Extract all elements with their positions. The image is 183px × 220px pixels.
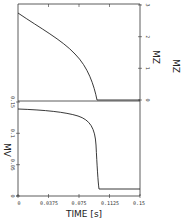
mv-tick-0: 0 xyxy=(10,194,16,197)
mz-tick-labels: 0 1 2 3 xyxy=(145,3,151,101)
x-tick-2: 0.075 xyxy=(71,200,86,206)
mz-tick-0: 0 xyxy=(145,98,151,101)
mv-panel: 0 0.05 0.1 0.15 MV 0 0.0375 0.075 0.1125… xyxy=(2,96,145,219)
x-tick-labels: 0 0.0375 0.075 0.1125 0.15 xyxy=(17,200,145,206)
mv-tick-2: 0.1 xyxy=(10,129,16,138)
mv-series-line xyxy=(18,109,140,189)
mv-axis-label: MV xyxy=(2,143,12,158)
mz-tick-2: 2 xyxy=(145,35,151,38)
x-tick-0: 0 xyxy=(17,200,20,206)
x-tick-3: 0.1125 xyxy=(101,200,119,206)
stacked-line-chart: 0 1 2 3 MZ MZ 0 0.05 0.1 0.15 MV xyxy=(0,0,183,220)
mv-tick-1: 0.05 xyxy=(10,159,16,171)
mz-axis-label: MZ xyxy=(151,50,161,64)
x-axis-label: TIME [s] xyxy=(65,209,102,219)
mv-tick-3: 0.15 xyxy=(10,96,16,108)
x-tick-1: 0.0375 xyxy=(40,200,58,206)
mz-tick-3: 3 xyxy=(145,3,151,6)
mz-axis-label-outer: MZ xyxy=(171,59,181,73)
x-tick-4: 0.15 xyxy=(133,200,145,206)
mz-tick-1: 1 xyxy=(145,67,151,70)
mz-series-line xyxy=(18,13,140,100)
mz-panel: 0 1 2 3 MZ MZ xyxy=(18,3,181,101)
